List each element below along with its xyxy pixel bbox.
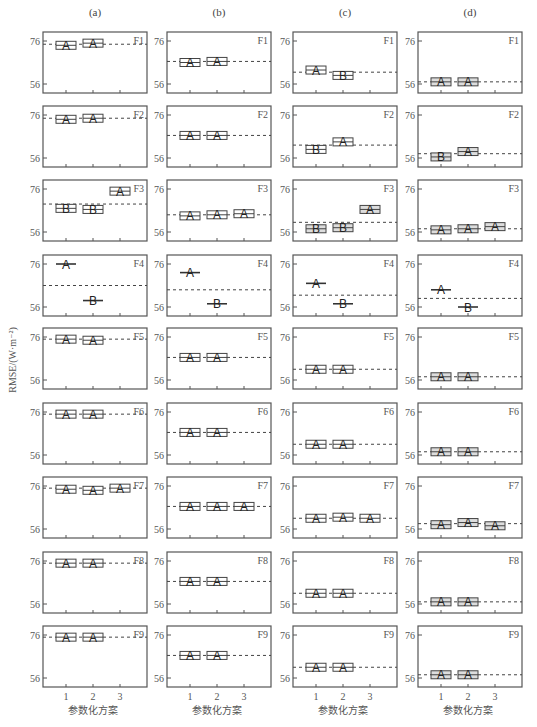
y-tick-label: 76 xyxy=(280,36,290,47)
panel-label: F2 xyxy=(508,109,519,120)
group-letter: A xyxy=(464,668,472,682)
group-letter: A xyxy=(89,112,97,126)
panel: 5676F8AA xyxy=(30,552,147,613)
group-letter: A xyxy=(213,129,221,143)
group-letter: A xyxy=(116,482,124,496)
y-tick-label: 76 xyxy=(280,184,290,195)
panel-label: F6 xyxy=(133,406,144,417)
panel-label: F6 xyxy=(383,406,394,417)
y-tick-label: 76 xyxy=(280,556,290,567)
x-tick-label: 1 xyxy=(314,691,319,702)
group-letter: A xyxy=(437,595,445,609)
panel: 5676F1AA xyxy=(154,32,271,93)
panel-label: F4 xyxy=(133,258,144,269)
panel-label: F9 xyxy=(133,629,144,640)
panel: 5676F5AA xyxy=(280,328,397,389)
y-tick-label: 76 xyxy=(405,36,415,47)
y-tick-label: 56 xyxy=(405,79,415,90)
y-tick-label: 56 xyxy=(280,302,290,313)
group-letter: A xyxy=(339,587,347,601)
y-tick-label: 56 xyxy=(280,153,290,164)
group-letter: A xyxy=(339,661,347,675)
group-letter: A xyxy=(312,363,320,377)
panel-label: F7 xyxy=(133,480,144,491)
y-tick-label: 76 xyxy=(30,259,40,270)
group-letter: A xyxy=(437,370,445,384)
panel-label: F5 xyxy=(257,331,268,342)
y-tick-label: 76 xyxy=(405,259,415,270)
y-tick-label: 76 xyxy=(405,332,415,343)
group-letter: A xyxy=(437,283,445,297)
y-tick-label: 76 xyxy=(154,630,164,641)
y-tick-label: 56 xyxy=(280,599,290,610)
panel-label: F8 xyxy=(133,555,144,566)
group-letter: A xyxy=(62,333,70,347)
y-tick-label: 76 xyxy=(405,110,415,121)
panel-label: F8 xyxy=(383,555,394,566)
panel-label: F1 xyxy=(508,35,519,46)
panel-label: F1 xyxy=(257,35,268,46)
y-tick-label: 76 xyxy=(30,332,40,343)
panel: 5676123参数化方案F9AA xyxy=(30,626,147,716)
group-letter: A xyxy=(464,145,472,159)
y-tick-label: 76 xyxy=(30,184,40,195)
group-letter: B xyxy=(437,150,445,164)
panel: 5676F2AA xyxy=(30,106,147,167)
column-title: (b) xyxy=(213,6,226,19)
y-tick-label: 56 xyxy=(280,79,290,90)
x-axis-label: 参数化方案 xyxy=(443,704,493,716)
group-letter: A xyxy=(213,55,221,69)
y-tick-label: 56 xyxy=(30,227,40,238)
panel-label: F5 xyxy=(508,331,519,342)
group-letter: A xyxy=(186,56,194,70)
y-tick-label: 76 xyxy=(154,259,164,270)
group-letter: A xyxy=(464,75,472,89)
y-tick-label: 56 xyxy=(30,153,40,164)
panel-label: F1 xyxy=(383,35,394,46)
panel: 5676F1AA xyxy=(30,32,147,93)
y-tick-label: 56 xyxy=(154,524,164,535)
group-letter: A xyxy=(186,129,194,143)
panel: 5676F6AA xyxy=(405,403,522,464)
group-letter: A xyxy=(213,351,221,365)
group-letter: A xyxy=(339,438,347,452)
y-tick-label: 56 xyxy=(30,673,40,684)
group-letter: A xyxy=(213,500,221,514)
x-tick-label: 1 xyxy=(64,691,69,702)
panel: 5676F3BBA xyxy=(280,180,397,241)
x-tick-label: 1 xyxy=(439,691,444,702)
y-tick-label: 76 xyxy=(280,407,290,418)
y-tick-label: 76 xyxy=(280,630,290,641)
panel: 5676F6AA xyxy=(280,403,397,464)
y-tick-label: 56 xyxy=(405,153,415,164)
group-letter: A xyxy=(312,512,320,526)
group-letter: A xyxy=(240,207,248,221)
group-letter: A xyxy=(89,334,97,348)
y-tick-label: 76 xyxy=(405,407,415,418)
panel-label: F3 xyxy=(383,183,394,194)
x-tick-label: 2 xyxy=(91,691,96,702)
group-letter: B xyxy=(312,143,320,157)
panel-frame xyxy=(293,477,397,538)
panel-label: F7 xyxy=(383,480,394,491)
panel-label: F2 xyxy=(383,109,394,120)
y-tick-label: 76 xyxy=(154,36,164,47)
group-letter: A xyxy=(186,209,194,223)
group-letter: A xyxy=(62,483,70,497)
group-letter: A xyxy=(62,39,70,53)
y-tick-label: 56 xyxy=(30,524,40,535)
panel-frame xyxy=(293,403,397,464)
group-letter: A xyxy=(464,370,472,384)
group-letter: B xyxy=(339,297,347,311)
group-letter: A xyxy=(339,511,347,525)
group-letter: A xyxy=(491,519,499,533)
group-letter: A xyxy=(312,661,320,675)
group-letter: A xyxy=(62,258,70,272)
column-title: (a) xyxy=(89,6,102,19)
panel: 5676F3BBA xyxy=(30,180,147,241)
panel-frame xyxy=(293,328,397,389)
y-tick-label: 56 xyxy=(30,599,40,610)
y-tick-label: 76 xyxy=(280,110,290,121)
y-tick-label: 76 xyxy=(30,556,40,567)
panel: 5676123参数化方案F9AA xyxy=(280,626,397,716)
